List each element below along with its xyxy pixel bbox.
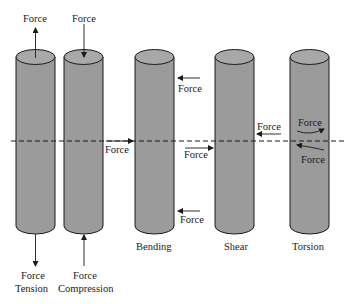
shear-right-force-label: Force [257,121,281,132]
cylinder-tension [16,50,55,235]
shear-left-force-label: Force [184,149,208,160]
stress-diagram: Force Force Tension Force Force Compress… [0,0,352,304]
cylinder-compression [64,50,103,235]
torsion-lower-force-label: Force [301,154,325,165]
compression-caption: Compression [58,283,114,294]
tension-top-force-label: Force [23,13,47,24]
bending-upper-right-force-label: Force [178,83,202,94]
bending-left-force-label: Force [105,144,129,155]
cylinder-torsion [290,50,329,235]
cylinder-shear [215,50,254,235]
cylinder-bending [135,50,174,234]
torsion-caption: Torsion [292,241,325,252]
torsion-upper-force-label: Force [298,117,322,128]
tension-caption: Tension [15,283,49,294]
bending-lower-right-force-label: Force [180,214,204,225]
shear-caption: Shear [224,241,248,252]
compression-bottom-force-label: Force [73,270,97,281]
compression-top-force-label: Force [72,13,96,24]
tension-bottom-force-label: Force [21,270,45,281]
bending-caption: Bending [136,241,172,252]
